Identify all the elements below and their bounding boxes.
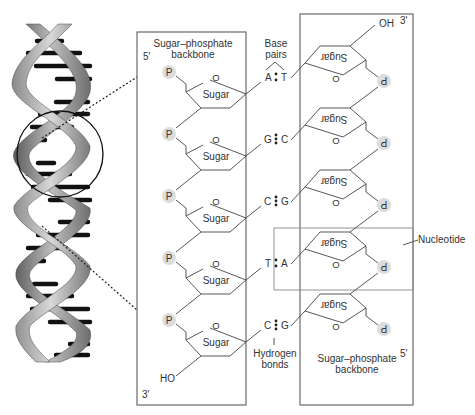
- svg-text:Sugar: Sugar: [320, 114, 347, 125]
- svg-text:Sugar: Sugar: [320, 238, 347, 249]
- svg-text:Sugar: Sugar: [320, 300, 347, 311]
- svg-text:Sugar: Sugar: [203, 213, 230, 224]
- svg-text:P: P: [380, 261, 387, 272]
- right-backbone-label-line2: backbone: [335, 364, 379, 375]
- base-pairs-label-line1: Base: [265, 38, 288, 49]
- left-strand-3prime-label: 3': [142, 389, 150, 400]
- dna-double-helix-illustration: [12, 24, 103, 362]
- svg-text:Sugar: Sugar: [320, 176, 347, 187]
- svg-text:P: P: [166, 315, 173, 326]
- right-nucleotide-unit-2: O Sugar P: [291, 108, 391, 170]
- right-terminal-bond: [350, 25, 375, 46]
- svg-text:G: G: [264, 134, 272, 145]
- svg-text:P: P: [166, 67, 173, 78]
- nucleotide-label: Nucleotide: [418, 234, 466, 245]
- svg-text:O: O: [212, 320, 219, 331]
- svg-text:O: O: [332, 321, 339, 332]
- right-strand-5prime-label: 5': [400, 348, 408, 359]
- svg-text:O: O: [212, 72, 219, 83]
- left-strand-5prime-label: 5': [143, 51, 151, 62]
- svg-text:P: P: [380, 75, 387, 86]
- svg-text:A: A: [265, 72, 272, 83]
- right-strand-box: [300, 14, 413, 405]
- svg-text:P: P: [380, 199, 387, 210]
- svg-text:O: O: [332, 73, 339, 84]
- hydrogen-bonds-label-line1: Hydrogen: [253, 348, 296, 359]
- svg-text:A: A: [281, 258, 288, 269]
- left-strand-ho-label: HO: [160, 373, 175, 384]
- base-pairs: A T G C C G T A C G: [264, 72, 289, 331]
- right-strand-3prime-label: 3': [400, 15, 408, 26]
- left-backbone-label-line1: Sugar–phosphate: [154, 38, 233, 49]
- base-pair-1: A T: [265, 72, 287, 83]
- svg-text:G: G: [281, 196, 289, 207]
- svg-text:P: P: [380, 323, 387, 334]
- svg-text:Sugar: Sugar: [320, 52, 347, 63]
- svg-text:C: C: [264, 320, 271, 331]
- base-pairs-bracket: [266, 62, 284, 70]
- svg-text:P: P: [166, 191, 173, 202]
- base-pair-4: T A: [265, 258, 288, 269]
- svg-text:G: G: [281, 320, 289, 331]
- right-nucleotide-unit-5: O Sugar P: [291, 294, 391, 336]
- base-pair-5: C G: [264, 320, 289, 331]
- svg-text:O: O: [332, 135, 339, 146]
- right-nucleotide-unit-4: O Sugar P: [291, 232, 391, 294]
- svg-text:P: P: [166, 129, 173, 140]
- svg-text:Sugar: Sugar: [203, 337, 230, 348]
- right-strand-oh-label: OH: [379, 18, 394, 29]
- svg-text:O: O: [332, 259, 339, 270]
- svg-text:P: P: [380, 137, 387, 148]
- svg-text:T: T: [281, 72, 287, 83]
- base-pair-3: C G: [264, 196, 289, 207]
- svg-text:C: C: [264, 196, 271, 207]
- svg-text:Sugar: Sugar: [203, 89, 230, 100]
- left-backbone-label-line2: backbone: [171, 49, 215, 60]
- svg-text:Sugar: Sugar: [203, 275, 230, 286]
- nucleotide-pointer: [403, 240, 418, 245]
- right-nucleotide-unit-1: O Sugar P: [291, 46, 391, 108]
- right-nucleotide-unit-3: O Sugar P: [291, 170, 391, 232]
- svg-text:O: O: [212, 134, 219, 145]
- right-backbone-label-line1: Sugar–phosphate: [318, 353, 397, 364]
- svg-text:T: T: [265, 258, 271, 269]
- svg-text:P: P: [166, 253, 173, 264]
- svg-text:O: O: [212, 258, 219, 269]
- svg-text:O: O: [332, 197, 339, 208]
- dna-structure-diagram: Sugar–phosphate backbone 5' 3' HO Base p…: [0, 0, 475, 415]
- svg-text:Sugar: Sugar: [203, 151, 230, 162]
- svg-text:C: C: [281, 134, 288, 145]
- base-pairs-label-line2: pairs: [265, 49, 287, 60]
- hydrogen-bonds-label-line2: bonds: [261, 359, 288, 370]
- svg-text:O: O: [212, 196, 219, 207]
- base-pair-2: G C: [264, 134, 288, 145]
- right-strand-units: O Sugar P O Sugar P O Sugar P: [291, 25, 391, 336]
- nucleotide-highlight-box: [274, 228, 413, 290]
